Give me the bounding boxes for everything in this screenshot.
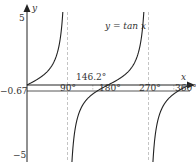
- x-axis-label: x: [181, 72, 186, 82]
- annotation-146-2: 146.2°: [76, 72, 106, 82]
- hline-label: −0.67: [0, 86, 28, 96]
- x-tick-180: 180°: [99, 83, 121, 93]
- x-tick-360: 360°: [175, 83, 196, 93]
- y-axis-label: y: [31, 3, 38, 13]
- x-tick-270: 270°: [139, 83, 161, 93]
- y-tick-5: 5: [19, 13, 25, 23]
- y-axis-arrow-icon: [24, 4, 31, 12]
- y-tick-neg5: −5: [13, 150, 27, 160]
- tan-graph: y x 5 −5 −0.67 90° 180° 270° 360° 146.2°…: [0, 0, 196, 164]
- x-tick-90: 90°: [60, 83, 76, 93]
- curve-label: y = tan x: [104, 21, 146, 31]
- tan-branch-3: [149, 85, 189, 164]
